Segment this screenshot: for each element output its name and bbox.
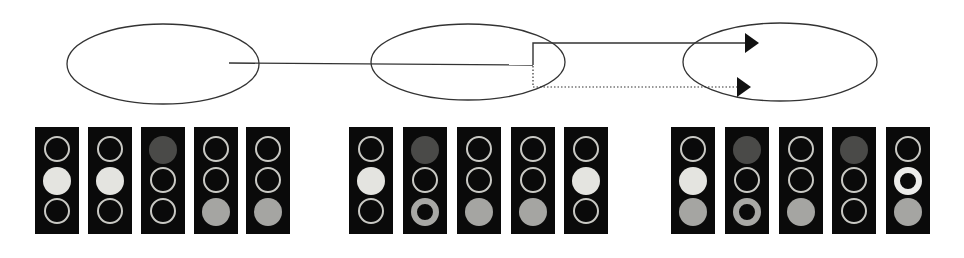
lamp-bot-ring-icon xyxy=(358,198,384,224)
lamp-top-dark-icon xyxy=(149,136,177,164)
lamp-bot-gray-icon xyxy=(465,198,493,226)
arrowhead-icon xyxy=(737,77,751,97)
lamp-mid-ring-icon xyxy=(520,167,546,193)
lamp-mid-ring-icon xyxy=(255,167,281,193)
lamp-top-ring-icon xyxy=(895,136,921,162)
lamp-mid-ring-icon xyxy=(203,167,229,193)
lamp-mid-ring-icon xyxy=(150,167,176,193)
group-2-signal-panel-3 xyxy=(457,127,501,234)
lamp-bot-gray-icon xyxy=(787,198,815,226)
lamp-bot-ring-icon xyxy=(44,198,70,224)
lamp-top-ring-icon xyxy=(203,136,229,162)
lamp-mid-bright-icon xyxy=(572,167,600,195)
lamp-mid-ring-icon xyxy=(788,167,814,193)
lamp-bot-gray-icon xyxy=(894,198,922,226)
lamp-top-ring-icon xyxy=(255,136,281,162)
lamp-mid-bright-icon xyxy=(43,167,71,195)
state-ellipses xyxy=(67,23,877,104)
lamp-bot-gray-icon xyxy=(254,198,282,226)
state-2-ellipse xyxy=(371,24,565,100)
lamp-bot-gray-icon xyxy=(202,198,230,226)
group-1-signal-panel-4 xyxy=(194,127,238,234)
lamp-mid-bright-icon xyxy=(357,167,385,195)
group-3-signal-panel-4 xyxy=(832,127,876,234)
lamp-top-dark-icon xyxy=(733,136,761,164)
group-2-signal-panel-1 xyxy=(349,127,393,234)
lamp-top-ring-icon xyxy=(573,136,599,162)
lamp-top-ring-icon xyxy=(44,136,70,162)
group-2-signal-panel-2 xyxy=(403,127,447,234)
lamp-top-ring-icon xyxy=(466,136,492,162)
lamp-top-ring-icon xyxy=(358,136,384,162)
state-3-ellipse xyxy=(683,23,877,101)
lamp-bot-thick-ring-gray-icon xyxy=(411,198,439,226)
lamp-top-dark-icon xyxy=(840,136,868,164)
group-2-signal-panel-4 xyxy=(511,127,555,234)
group-1-signal-panel-1 xyxy=(35,127,79,234)
lamp-mid-ring-icon xyxy=(734,167,760,193)
lamp-top-ring-icon xyxy=(680,136,706,162)
lamp-mid-bright-icon xyxy=(96,167,124,195)
state-1-ellipse xyxy=(67,24,259,104)
lamp-bot-ring-icon xyxy=(97,198,123,224)
solid-connector-line xyxy=(229,63,533,65)
group-2-signal-panel-5 xyxy=(564,127,608,234)
lamp-bot-thick-ring-gray-icon xyxy=(733,198,761,226)
group-3-signal-panel-3 xyxy=(779,127,823,234)
lamp-top-ring-icon xyxy=(97,136,123,162)
lamp-mid-ring-icon xyxy=(466,167,492,193)
lamp-mid-ring-icon xyxy=(841,167,867,193)
lamp-top-dark-icon xyxy=(411,136,439,164)
lamp-bot-ring-icon xyxy=(841,198,867,224)
group-3-signal-panel-2 xyxy=(725,127,769,234)
group-3-signal-panel-1 xyxy=(671,127,715,234)
lamp-mid-ring-icon xyxy=(412,167,438,193)
lamp-bot-gray-icon xyxy=(679,198,707,226)
group-3-signal-panel-5 xyxy=(886,127,930,234)
lamp-top-ring-icon xyxy=(788,136,814,162)
lamp-bot-ring-icon xyxy=(150,198,176,224)
lamp-bot-gray-icon xyxy=(519,198,547,226)
transition-connectors xyxy=(229,33,759,97)
group-1-signal-panel-3 xyxy=(141,127,185,234)
lamp-mid-thick-ring-bright-icon xyxy=(894,167,922,195)
group-1-signal-panel-2 xyxy=(88,127,132,234)
group-1-signal-panel-5 xyxy=(246,127,290,234)
lamp-top-ring-icon xyxy=(520,136,546,162)
arrowhead-icon xyxy=(745,33,759,53)
lamp-mid-bright-icon xyxy=(679,167,707,195)
lamp-bot-ring-icon xyxy=(573,198,599,224)
